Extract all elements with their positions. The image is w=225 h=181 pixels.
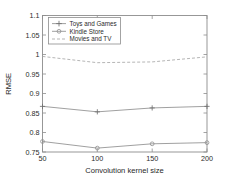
y-tick-label: 1.05 [26, 31, 40, 40]
x-tick-label: 100 [91, 154, 103, 163]
x-tick-label: 200 [201, 154, 213, 163]
y-tick-label: 0.95 [26, 70, 40, 79]
y-tick-label: 0.85 [26, 109, 40, 118]
y-axis-title: RMSE [5, 73, 14, 95]
chart-figure: 0.75 0.8 0.85 0.9 0.95 1 1.05 1.1 50 100… [0, 0, 225, 181]
x-tick-label: 150 [146, 154, 158, 163]
legend-label-kindle-store: Kindle Store [70, 28, 105, 35]
y-tick-label: 0.8 [30, 128, 40, 137]
legend[interactable]: Toys and Games Kindle Store Movies and T… [49, 18, 121, 45]
y-tick-label: 1 [36, 50, 40, 59]
y-tick-label: 1.1 [30, 11, 40, 20]
legend-label-movies-and-tv: Movies and TV [70, 35, 113, 42]
y-tick-label: 0.75 [26, 148, 40, 157]
y-tick-label: 0.9 [30, 89, 40, 98]
rmse-vs-kernel-size-line-chart: 0.75 0.8 0.85 0.9 0.95 1 1.05 1.1 50 100… [0, 0, 225, 181]
x-tick-label: 50 [39, 154, 47, 163]
x-axis-title: Convolution kernel size [85, 166, 164, 175]
